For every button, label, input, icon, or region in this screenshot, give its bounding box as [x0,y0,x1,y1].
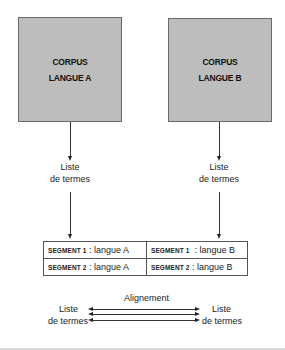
arrow-left-icon [88,318,93,322]
corpus-b-title: CORPUS [202,54,237,70]
arrow-terms-b-to-segments [219,192,220,235]
arrow-left-icon [88,307,93,311]
arrow-terms-a-to-segments [70,192,71,235]
segment-cell-b: SEGMENT 1 : langue B [147,242,248,259]
segments-table: SEGMENT 1 : langue A SEGMENT 1 : langue … [43,241,248,276]
arrow-head-down-icon [217,234,221,239]
arrow-right-icon [195,312,200,316]
arrow-corpus-a-to-terms [70,122,71,158]
term-list-b-label: Liste de termes [189,161,249,185]
segment-cell-b: SEGMENT 2 : langue B [147,259,248,276]
arrow-right-icon [195,307,200,311]
corpus-a-title: CORPUS [52,54,87,70]
alignment-right-term-list: Liste de termes [202,303,252,327]
alignment-title: Alignement [0,293,285,303]
term-list-a-label: Liste de termes [40,161,100,185]
arrow-right-icon [195,318,200,322]
arrow-head-down-icon [68,234,72,239]
corpus-box-langue-a: CORPUS LANGUE A [18,17,122,122]
arrow-left-icon [88,312,93,316]
arrow-corpus-b-to-terms [219,122,220,158]
segment-row: SEGMENT 1 : langue A SEGMENT 1 : langue … [44,242,248,259]
segment-cell-a: SEGMENT 2 : langue A [44,259,147,276]
segment-cell-a: SEGMENT 1 : langue A [44,242,147,259]
corpus-b-language: LANGUE B [199,70,242,86]
alignment-left-term-list: Liste de termes [40,303,88,327]
segment-row: SEGMENT 2 : langue A SEGMENT 2 : langue … [44,259,248,276]
corpus-box-langue-b: CORPUS LANGUE B [168,18,272,122]
corpus-a-language: LANGUE A [49,70,91,86]
